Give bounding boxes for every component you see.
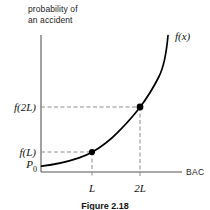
p0-symbol: P xyxy=(26,158,33,170)
data-point-f2l xyxy=(137,104,144,111)
y-tick-label-f2l: f(2L) xyxy=(0,101,36,113)
y-tick-label-fl: f(L) xyxy=(0,146,36,158)
y-tick-label-p0: P0 xyxy=(0,158,37,173)
curve-label-fx: f(x) xyxy=(175,30,190,42)
exponential-curve xyxy=(42,36,169,167)
x-tick-label-l: L xyxy=(89,182,95,194)
p0-subscript: 0 xyxy=(33,165,37,174)
figure-caption: Figure 2.18 xyxy=(0,201,210,210)
figure-container: probability of an accident f(2L) f(L) P0… xyxy=(0,0,210,210)
data-point-fl xyxy=(89,149,95,155)
x-tick-label-2l: 2L xyxy=(134,182,146,194)
x-axis-label-bac: BAC xyxy=(186,167,204,177)
